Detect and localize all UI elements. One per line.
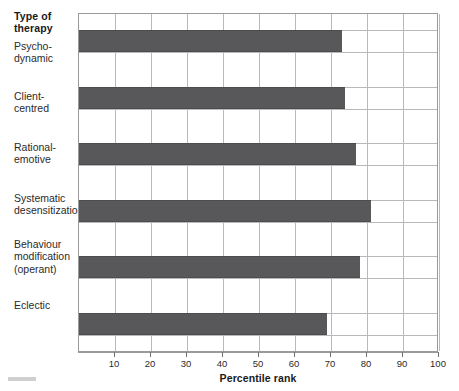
category-label-4: Behaviour modification (operant)	[14, 238, 88, 275]
category-axis: Type of therapy Psycho- dynamic Client- …	[0, 0, 78, 352]
bar-chart: Type of therapy Psycho- dynamic Client- …	[0, 0, 459, 391]
horizontal-gridline-2-1	[79, 165, 437, 166]
x-tick-70	[330, 352, 331, 357]
vertical-gridline-20	[151, 14, 152, 351]
vertical-gridline-70	[331, 14, 332, 351]
horizontal-gridline-0-1	[79, 52, 437, 53]
x-tick-label-10: 10	[94, 358, 134, 369]
vertical-gridline-80	[367, 14, 368, 351]
x-tick-label-80: 80	[346, 358, 386, 369]
x-tick-label-90: 90	[382, 358, 422, 369]
x-tick-label-50: 50	[238, 358, 278, 369]
x-tick-100	[438, 352, 439, 357]
scan-artifact-mark	[8, 377, 36, 381]
x-tick-label-70: 70	[310, 358, 350, 369]
x-tick-10	[114, 352, 115, 357]
x-tick-50	[258, 352, 259, 357]
value-axis-title: Percentile rank	[78, 372, 438, 384]
vertical-gridline-40	[223, 14, 224, 351]
bar-1	[79, 87, 345, 109]
x-tick-90	[402, 352, 403, 357]
value-axis: Percentile rank 102030405060708090100	[78, 352, 438, 391]
x-tick-label-40: 40	[202, 358, 242, 369]
bar-2	[79, 143, 356, 165]
bar-0	[79, 30, 342, 52]
horizontal-gridline-1-1	[79, 109, 437, 110]
plot-area	[78, 13, 438, 352]
bar-5	[79, 313, 327, 335]
category-label-2: Rational- emotive	[14, 141, 88, 166]
x-tick-30	[186, 352, 187, 357]
horizontal-gridline-3-1	[79, 222, 437, 223]
category-label-5: Eclectic	[14, 299, 88, 311]
x-tick-40	[222, 352, 223, 357]
x-tick-label-60: 60	[274, 358, 314, 369]
horizontal-gridline-5-1	[79, 335, 437, 336]
bar-4	[79, 256, 360, 278]
vertical-gridline-50	[259, 14, 260, 351]
x-tick-80	[366, 352, 367, 357]
vertical-gridline-30	[187, 14, 188, 351]
vertical-gridline-100	[439, 14, 440, 351]
x-tick-label-20: 20	[130, 358, 170, 369]
x-tick-label-30: 30	[166, 358, 206, 369]
vertical-gridline-90	[403, 14, 404, 351]
category-label-3: Systematic desensitization	[14, 192, 88, 217]
vertical-gridline-10	[115, 14, 116, 351]
horizontal-gridline-4-1	[79, 278, 437, 279]
category-label-1: Client- centred	[14, 90, 88, 115]
x-tick-60	[294, 352, 295, 357]
category-axis-title: Type of therapy	[14, 10, 84, 34]
bar-3	[79, 200, 371, 222]
x-tick-label-100: 100	[418, 358, 458, 369]
vertical-gridline-60	[295, 14, 296, 351]
x-tick-20	[150, 352, 151, 357]
category-label-0: Psycho- dynamic	[14, 40, 88, 65]
